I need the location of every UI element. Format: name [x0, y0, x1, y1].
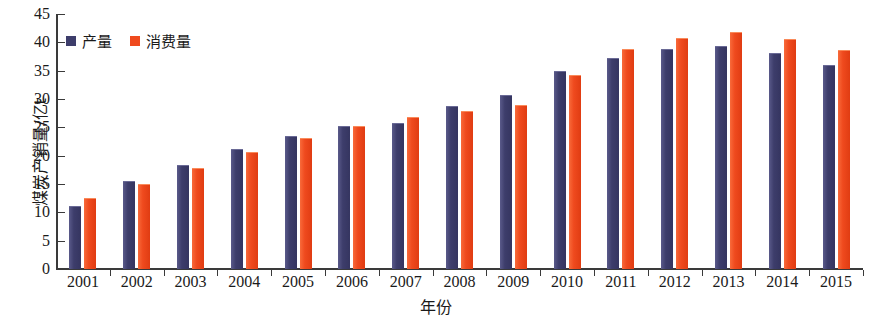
x-axis-tick-label: 2011	[591, 273, 651, 291]
chart-legend: 产量消费量	[66, 30, 191, 51]
x-axis-tick-label: 2013	[699, 273, 759, 291]
x-axis-tick-label: 2015	[806, 273, 866, 291]
bar	[285, 136, 297, 269]
legend-item: 消费量	[130, 30, 191, 51]
bar	[231, 149, 243, 269]
y-axis-tick-label: 35	[22, 63, 50, 79]
x-axis-tick-label: 2002	[107, 273, 167, 291]
x-axis-tick-label: 2007	[376, 273, 436, 291]
square-swatch-icon	[66, 36, 76, 46]
y-axis-tick-label: 20	[22, 148, 50, 164]
bar	[300, 138, 312, 269]
bar	[715, 46, 727, 269]
bar	[446, 106, 458, 269]
plot-area	[56, 14, 863, 269]
bar	[338, 126, 350, 269]
x-axis-tick-label: 2001	[53, 273, 113, 291]
bar	[676, 38, 688, 269]
y-axis-tick-label: 5	[22, 233, 50, 249]
bar	[515, 105, 527, 269]
y-axis-tick-label: 15	[22, 176, 50, 192]
y-axis-tick-labels: 051015202530354045	[22, 0, 50, 317]
bar	[838, 50, 850, 269]
x-axis-tick-label: 2010	[537, 273, 597, 291]
y-axis-tick-label: 40	[22, 34, 50, 50]
bar	[823, 65, 835, 269]
bar	[622, 49, 634, 269]
x-axis-tick-label: 2014	[752, 273, 812, 291]
y-axis-tick-label: 25	[22, 119, 50, 135]
y-axis-tick	[58, 241, 65, 242]
bar	[554, 71, 566, 269]
y-axis-tick	[58, 269, 65, 270]
x-axis-tick-label: 2006	[322, 273, 382, 291]
y-axis-tick-label: 30	[22, 91, 50, 107]
bar	[769, 53, 781, 269]
bar	[123, 181, 135, 269]
y-axis-tick-label: 10	[22, 204, 50, 220]
legend-label: 产量	[82, 30, 112, 51]
x-axis-tick-label: 2009	[483, 273, 543, 291]
bar	[177, 165, 189, 269]
bar	[500, 95, 512, 269]
bar	[84, 198, 96, 269]
x-axis-title: 年份	[0, 294, 871, 317]
legend-item: 产量	[66, 30, 112, 51]
x-axis-tick-label: 2012	[645, 273, 705, 291]
bar	[392, 123, 404, 269]
y-axis-tick	[58, 127, 65, 128]
y-axis-tick	[58, 99, 65, 100]
y-axis-line	[56, 14, 58, 269]
bar	[661, 49, 673, 269]
y-axis-tick	[58, 156, 65, 157]
y-axis-tick	[58, 14, 65, 15]
bar	[192, 168, 204, 269]
legend-label: 消费量	[146, 30, 191, 51]
y-axis-tick-label: 45	[22, 6, 50, 22]
bar	[69, 206, 81, 269]
x-axis-tick-label: 2004	[214, 273, 274, 291]
square-swatch-icon	[130, 36, 140, 46]
bar	[461, 111, 473, 269]
bar	[138, 184, 150, 269]
y-axis-tick	[58, 184, 65, 185]
bar	[784, 39, 796, 269]
bar	[569, 75, 581, 269]
coal-production-consumption-chart: 煤炭产销量/亿t 051015202530354045 200120022003…	[0, 0, 871, 317]
y-axis-tick	[58, 212, 65, 213]
bar	[353, 126, 365, 269]
bar	[246, 152, 258, 269]
y-axis-tick-label: 0	[22, 261, 50, 277]
x-axis-tick-label: 2003	[161, 273, 221, 291]
y-axis-tick	[58, 42, 65, 43]
bar	[407, 117, 419, 269]
x-axis-tick-label: 2008	[430, 273, 490, 291]
bar	[730, 32, 742, 269]
y-axis-tick	[58, 71, 65, 72]
bar	[607, 58, 619, 269]
x-axis-tick-label: 2005	[268, 273, 328, 291]
